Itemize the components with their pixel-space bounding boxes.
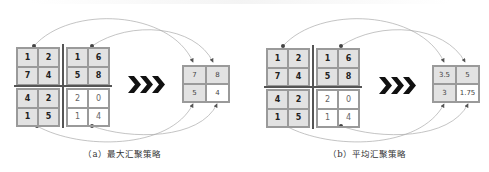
input-block-top-left: 1 2 7 4 (16, 47, 60, 86)
cell: 1 (317, 49, 338, 68)
cell: 8 (88, 67, 109, 86)
cell: 5 (317, 68, 338, 87)
cell: 1 (317, 109, 338, 128)
cell: 2 (38, 89, 59, 108)
panel-max-pooling: 1 2 7 4 1 6 5 8 4 2 1 5 2 0 1 4 7 8 5 4 … (0, 0, 244, 172)
input-block-bottom-right: 2 0 1 4 (316, 89, 360, 128)
horizontal-divider (14, 85, 112, 87)
input-block-top-right: 1 6 5 8 (66, 47, 110, 86)
cell: 6 (88, 48, 109, 67)
cell: 4 (17, 89, 38, 108)
cell: 5 (183, 84, 206, 102)
cell: 2 (317, 90, 338, 109)
output-grid: 7 8 5 4 (182, 65, 230, 103)
cell: 5 (38, 108, 59, 127)
cell: 6 (338, 49, 359, 68)
cell: 3.5 (433, 66, 456, 84)
cell: 5 (288, 109, 309, 128)
cell: 1 (17, 108, 38, 127)
input-block-bottom-right: 2 0 1 4 (66, 88, 110, 127)
cell: 0 (88, 89, 109, 108)
cell: 4 (88, 108, 109, 127)
cell: 2 (38, 48, 59, 67)
cell: 7 (183, 66, 206, 84)
cell: 5 (67, 67, 88, 86)
horizontal-divider (264, 86, 362, 88)
cell: 3 (433, 84, 456, 102)
cell: 7 (267, 68, 288, 87)
cell: 4 (38, 67, 59, 86)
cell: 1.75 (456, 84, 479, 102)
cell: 4 (338, 109, 359, 128)
cell: 5 (456, 66, 479, 84)
cell: 2 (67, 89, 88, 108)
input-block-bottom-left: 4 2 1 5 (266, 89, 310, 128)
triple-chevron-icon (379, 77, 417, 94)
input-block-top-right: 1 6 5 8 (316, 48, 360, 87)
cell: 7 (17, 67, 38, 86)
caption: （a）最大汇聚策略 (0, 147, 244, 159)
panel-average-pooling: 1 2 7 4 1 6 5 8 4 2 1 5 2 0 1 4 3.5 5 3 … (245, 0, 489, 172)
input-block-top-left: 1 2 7 4 (266, 48, 310, 87)
caption: （b）平均汇聚策略 (245, 147, 489, 159)
cell: 2 (288, 49, 309, 68)
cell: 4 (206, 84, 229, 102)
cell: 2 (288, 90, 309, 109)
cell: 1 (267, 49, 288, 68)
cell: 4 (267, 90, 288, 109)
cell: 0 (338, 90, 359, 109)
cell: 1 (17, 48, 38, 67)
cell: 8 (206, 66, 229, 84)
input-block-bottom-left: 4 2 1 5 (16, 88, 60, 127)
output-grid: 3.5 5 3 1.75 (432, 65, 480, 103)
cell: 1 (67, 48, 88, 67)
cell: 4 (288, 68, 309, 87)
cell: 8 (338, 68, 359, 87)
cell: 1 (267, 109, 288, 128)
cell: 1 (67, 108, 88, 127)
triple-chevron-icon (128, 76, 166, 93)
